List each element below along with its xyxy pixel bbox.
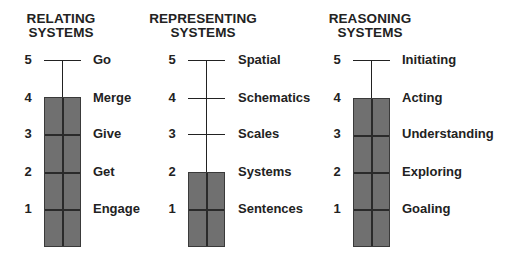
level-number-4: 4 xyxy=(331,91,343,105)
bar-line-level-3 xyxy=(354,135,389,137)
level-number-3: 3 xyxy=(331,127,343,141)
level-label-2: Exploring xyxy=(402,165,462,179)
bar-line-level-2 xyxy=(354,172,389,174)
level-label-3: Understanding xyxy=(402,127,494,141)
reasoning-systems-heading: REASONING SYSTEMS xyxy=(326,12,414,40)
level-label-1: Goaling xyxy=(402,202,450,216)
level-bar xyxy=(353,98,390,247)
level-number-1: 1 xyxy=(331,202,343,216)
level-number-2: 2 xyxy=(331,165,343,179)
bar-line-level-1 xyxy=(354,209,389,211)
scale-stem xyxy=(371,60,372,99)
level-number-5: 5 xyxy=(331,53,343,67)
heading-line-2: SYSTEMS xyxy=(326,26,414,40)
reasoning-systems-column: REASONING SYSTEMS 5 4 3 2 1 Initiating A… xyxy=(0,0,524,262)
level-label-5: Initiating xyxy=(402,53,456,67)
heading-line-1: REASONING xyxy=(326,12,414,26)
level-label-4: Acting xyxy=(402,91,442,105)
